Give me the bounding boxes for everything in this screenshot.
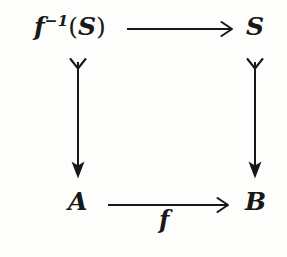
left-arrow xyxy=(71,59,86,179)
bottom-arrow xyxy=(108,198,228,212)
arrow-layer: S --> A (hook tail, solid head) --> B (h… xyxy=(0,0,287,257)
right-arrow xyxy=(248,59,263,179)
commutative-diagram: f−1(S) S A B f S --> A (hook tail, solid… xyxy=(0,0,287,257)
top-arrow xyxy=(127,22,232,36)
